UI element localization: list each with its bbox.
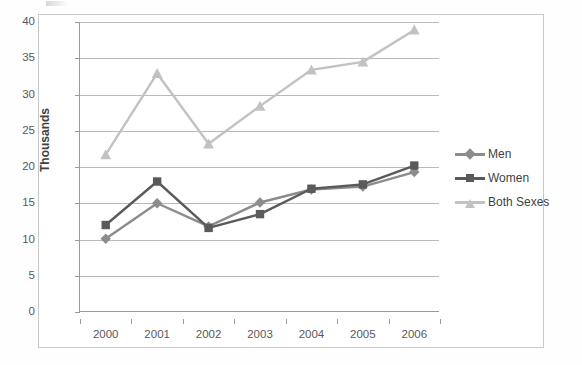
legend-item-men[interactable]: Men [455,142,579,166]
plot-area: 0510152025303540 20002001200220032004200… [79,22,439,312]
data-point-marker [409,25,420,35]
triangle-marker-icon [465,199,475,208]
legend-label: Both Sexes [488,196,549,208]
series-line-women [106,166,415,228]
legend-key [455,172,485,184]
legend-key [455,196,485,208]
legend-label: Men [488,148,511,160]
chart-legend: MenWomenBoth Sexes [455,142,579,214]
y-tick-label: 0 [0,306,35,318]
legend-item-women[interactable]: Women [455,166,579,190]
x-tick-mark [183,319,184,324]
y-tick-label: 5 [0,270,35,282]
y-tick-label: 30 [0,89,35,101]
y-tick-label: 15 [0,197,35,209]
y-tick-label: 35 [0,52,35,64]
scan-artifact [46,1,68,6]
legend-label: Women [488,172,529,184]
y-axis-title: Thousands [38,108,52,172]
square-marker-icon [466,174,474,182]
data-point-marker [153,177,161,185]
data-point-marker [102,221,110,229]
x-tick-mark [286,319,287,324]
x-tick-mark [234,319,235,324]
diamond-marker-icon [464,148,475,159]
series-line-both-sexes [106,30,415,155]
x-tick-label: 2006 [384,329,444,341]
legend-key [455,148,485,160]
x-tick-mark [80,319,81,324]
y-tick-label: 25 [0,125,35,137]
legend-item-both-sexes[interactable]: Both Sexes [455,190,579,214]
data-point-marker [256,210,264,218]
y-tick-label: 20 [0,161,35,173]
data-point-marker [152,68,163,78]
y-tick-label: 10 [0,234,35,246]
data-point-marker [255,197,265,207]
x-tick-mark [440,319,441,324]
y-tick-label: 40 [0,16,35,28]
x-tick-mark [337,319,338,324]
chart-screenshot: Thousands 0510152025303540 2000200120022… [0,0,582,365]
series-layer [80,22,440,312]
data-point-marker [307,185,315,193]
x-tick-mark [131,319,132,324]
data-point-marker [410,161,418,169]
y-tick-mark [75,312,80,313]
data-point-marker [359,180,367,188]
x-tick-mark [389,319,390,324]
data-point-marker [204,224,212,232]
